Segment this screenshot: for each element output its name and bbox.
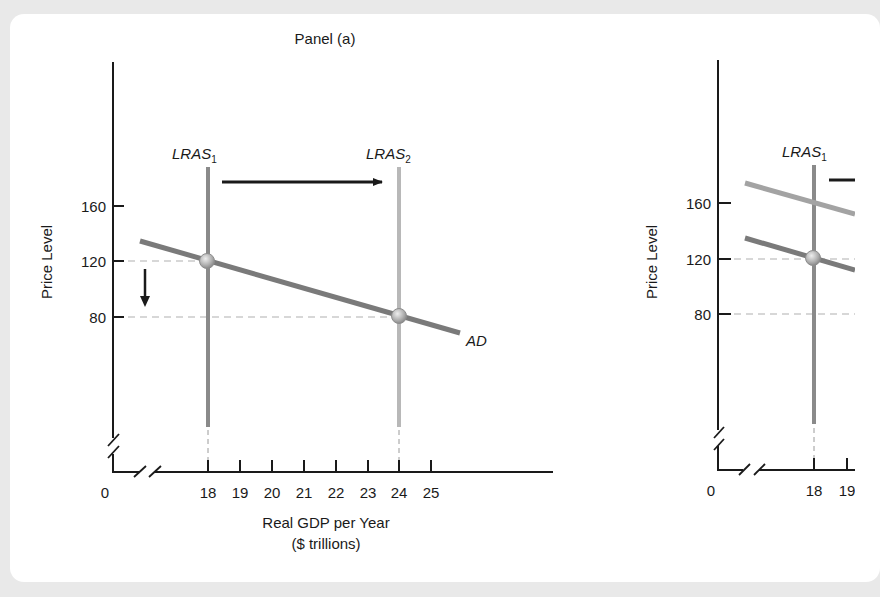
lras1-label: LRAS1 [172, 145, 217, 165]
price-drop-arrowhead-icon [140, 296, 150, 307]
ad1-curve [745, 238, 855, 270]
y-axis-label: Price Level [38, 225, 55, 299]
y-tick-label: 80 [89, 309, 106, 326]
x-tick-label: 18 [806, 482, 823, 499]
x-tick-label: 21 [296, 484, 313, 501]
x-tick-label: 19 [232, 484, 249, 501]
x-tick-label: 20 [264, 484, 281, 501]
y-tick-label: 160 [686, 195, 711, 212]
x-tick-label: 22 [328, 484, 345, 501]
panel-a-title: Panel (a) [295, 30, 356, 47]
y-tick-label: 120 [81, 253, 106, 270]
y-tick-label: 160 [81, 198, 106, 215]
x-axis-units: ($ trillions) [291, 535, 360, 552]
panel-b: Price Level 160 120 80 0 18 19 [643, 60, 855, 499]
y-tick-label: 80 [694, 306, 711, 323]
equilibrium-point-1 [200, 254, 215, 269]
x-axis-label: Real GDP per Year [262, 514, 389, 531]
x-tick-label: 23 [360, 484, 377, 501]
lras2-label: LRAS2 [366, 145, 411, 165]
ad-curve [140, 241, 460, 333]
x-tick-label: 25 [423, 484, 440, 501]
panel-a: Panel (a) Price Level 160 120 80 [38, 30, 553, 552]
equilibrium-point-2 [392, 309, 407, 324]
y-axis-label: Price Level [643, 225, 660, 299]
y-tick-label: 120 [686, 251, 711, 268]
x-ticks [814, 458, 847, 470]
y-ticks [718, 203, 731, 314]
ad-label: AD [465, 332, 487, 349]
x-ticks [208, 460, 431, 472]
x-tick-label: 19 [839, 482, 855, 499]
lras1-label: LRAS1 [782, 143, 827, 163]
x-tick-label: 24 [391, 484, 408, 501]
x-tick-label: 18 [200, 484, 217, 501]
ad2-curve [745, 183, 855, 214]
equilibrium-point-1 [806, 251, 821, 266]
origin-label: 0 [101, 484, 109, 501]
origin-label: 0 [707, 482, 715, 499]
